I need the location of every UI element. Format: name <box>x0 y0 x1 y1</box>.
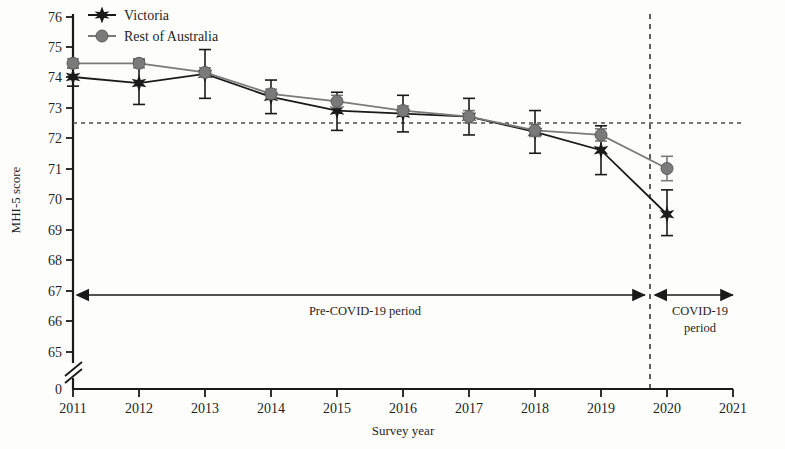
x-axis-ticks <box>73 389 733 397</box>
legend-item-rest-of-australia: Rest of Australia <box>88 29 219 44</box>
series-victoria <box>66 50 675 236</box>
legend-label-rest-of-australia: Rest of Australia <box>124 29 219 44</box>
y-axis-tick-labels: 76 75 74 73 72 71 70 69 68 67 66 65 0 <box>48 10 62 397</box>
covid-period-label-line1: COVID-19 <box>672 304 728 318</box>
x-tick-2021: 2021 <box>719 401 747 416</box>
data-point-circle <box>529 124 541 136</box>
y-tick-68: 68 <box>48 253 62 268</box>
circle-icon <box>96 30 108 42</box>
y-tick-0: 0 <box>55 382 62 397</box>
x-axis-title: Survey year <box>372 423 435 438</box>
chart-figure: 76 75 74 73 72 71 70 69 68 67 66 65 0 <box>0 0 785 449</box>
data-point-circle <box>331 95 343 107</box>
data-point-circle <box>67 57 79 69</box>
y-tick-71: 71 <box>48 162 62 177</box>
x-axis-tick-labels: 2011 2012 2013 2014 2015 2016 2017 2018 … <box>59 401 747 416</box>
y-tick-73: 73 <box>48 101 62 116</box>
y-tick-72: 72 <box>48 131 62 146</box>
y-tick-65: 65 <box>48 345 62 360</box>
x-tick-2011: 2011 <box>59 401 86 416</box>
y-tick-66: 66 <box>48 314 62 329</box>
x-tick-2017: 2017 <box>455 401 483 416</box>
x-tick-2012: 2012 <box>125 401 153 416</box>
data-point-circle <box>199 66 211 78</box>
y-tick-70: 70 <box>48 192 62 207</box>
data-point-circle <box>265 88 277 100</box>
x-tick-2014: 2014 <box>257 401 285 416</box>
y-tick-69: 69 <box>48 223 62 238</box>
y-tick-76: 76 <box>48 10 62 25</box>
mhi5-trend-chart: 76 75 74 73 72 71 70 69 68 67 66 65 0 <box>0 0 785 449</box>
data-point-circle <box>133 57 145 69</box>
data-series-layer <box>66 50 675 236</box>
series-rest-of-australia <box>67 57 673 180</box>
pre-covid-period-label: Pre-COVID-19 period <box>309 304 422 318</box>
y-axis-title: MHI-5 score <box>8 166 23 233</box>
y-tick-67: 67 <box>48 284 62 299</box>
data-point-circle <box>595 129 607 141</box>
legend-item-victoria: Victoria <box>88 7 170 24</box>
y-tick-74: 74 <box>48 70 62 85</box>
x-tick-2013: 2013 <box>191 401 219 416</box>
legend-label-victoria: Victoria <box>124 8 170 23</box>
x-tick-2019: 2019 <box>587 401 615 416</box>
x-tick-2015: 2015 <box>323 401 351 416</box>
data-point-circle <box>463 111 475 123</box>
data-point-circle <box>397 105 409 117</box>
y-tick-75: 75 <box>48 40 62 55</box>
covid-period-label-line2: period <box>684 321 717 335</box>
x-tick-2020: 2020 <box>653 401 681 416</box>
axis-lines <box>65 14 733 390</box>
x-tick-2016: 2016 <box>389 401 417 416</box>
chart-legend: Victoria Rest of Australia <box>88 7 219 45</box>
data-point-circle <box>661 163 673 175</box>
x-tick-2018: 2018 <box>521 401 549 416</box>
